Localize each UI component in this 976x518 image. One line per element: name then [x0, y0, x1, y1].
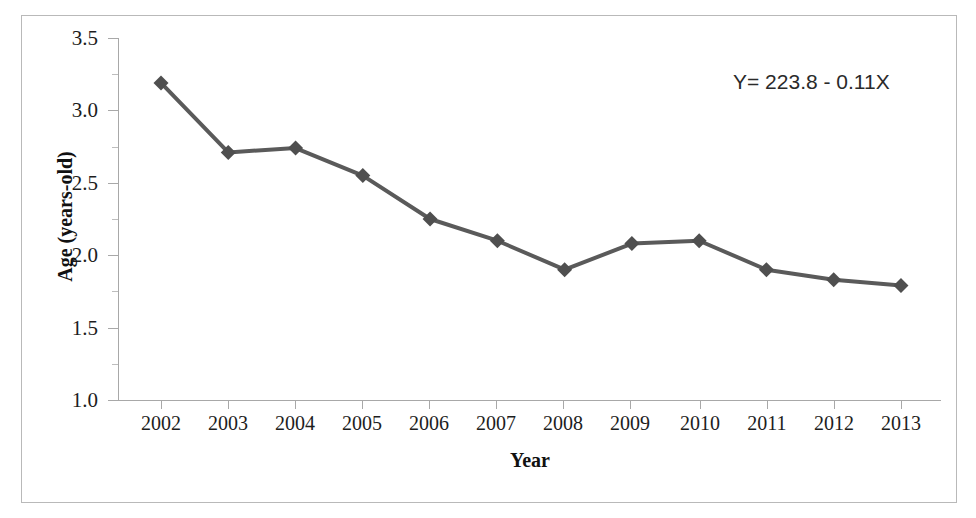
x-tick-2009	[630, 400, 631, 409]
x-tick-label-2007: 2007	[461, 413, 531, 433]
y-tick-label-3.5: 3.5	[52, 28, 98, 49]
x-tick-2003	[228, 400, 229, 409]
x-tick-label-2004: 2004	[260, 413, 330, 433]
x-tick-label-2003: 2003	[193, 413, 263, 433]
y-tick-1.5	[108, 328, 118, 329]
chart-figure: 3.5 3.0 2.5 2.0 1.5 1.0 2002 2003 2004 2…	[0, 0, 976, 518]
x-tick-2013	[901, 400, 902, 409]
y-minor-tick-2.25	[112, 219, 118, 220]
x-tick-label-2006: 2006	[394, 413, 464, 433]
y-tick-label-1.0: 1.0	[52, 390, 98, 411]
y-minor-tick-1.75	[112, 291, 118, 292]
x-tick-2004	[295, 400, 296, 409]
y-tick-1.0	[108, 400, 118, 401]
y-axis-line	[118, 38, 119, 401]
y-tick-3.5	[108, 38, 118, 39]
x-tick-2006	[429, 400, 430, 409]
x-tick-label-2009: 2009	[595, 413, 665, 433]
x-tick-2007	[496, 400, 497, 409]
x-tick-label-2012: 2012	[799, 413, 869, 433]
y-tick-2.5	[108, 183, 118, 184]
x-axis-title: Year	[430, 449, 630, 472]
y-tick-3.0	[108, 110, 118, 111]
x-tick-label-2013: 2013	[866, 413, 936, 433]
y-minor-tick-1.25	[112, 364, 118, 365]
x-tick-label-2011: 2011	[732, 413, 802, 433]
x-tick-2011	[767, 400, 768, 409]
x-tick-label-2002: 2002	[126, 413, 196, 433]
x-tick-2005	[362, 400, 363, 409]
x-tick-label-2010: 2010	[665, 413, 735, 433]
regression-equation-annotation: Y= 223.8 - 0.11X	[733, 70, 890, 94]
y-axis-title: Age (years-old)	[54, 102, 77, 332]
x-tick-2002	[161, 400, 162, 409]
x-tick-label-2008: 2008	[528, 413, 598, 433]
x-axis-line	[118, 400, 941, 401]
x-tick-2008	[563, 400, 564, 409]
y-tick-2.0	[108, 255, 118, 256]
x-tick-2010	[700, 400, 701, 409]
x-tick-label-2005: 2005	[327, 413, 397, 433]
x-tick-2012	[834, 400, 835, 409]
y-minor-tick-3.25	[112, 74, 118, 75]
y-minor-tick-2.75	[112, 147, 118, 148]
